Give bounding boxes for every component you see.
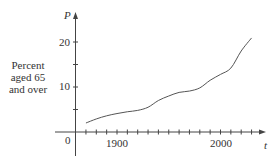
chart: P t 0 1900 2000 20 10 Percent aged 65 an… [0,0,276,161]
y-axis-variable-label: P [63,9,71,21]
line-chart-svg: P t 0 1900 2000 20 10 Percent aged 65 an… [0,0,276,161]
data-line-series [86,38,252,123]
origin-label: 0 [65,134,71,146]
y-tick-label-10: 10 [59,80,71,92]
y-description-line-2: aged 65 [11,71,46,83]
y-axis-description: Percent aged 65 and over [9,59,48,95]
x-axis-variable-label: t [264,139,268,151]
x-axis-arrow-icon [259,130,266,135]
x-tick-label-1900: 1900 [106,137,129,149]
y-axis-arrow-icon [73,12,78,19]
y-description-line-3: and over [9,83,48,95]
axes [55,12,266,156]
x-tick-label-2000: 2000 [210,137,233,149]
y-description-line-1: Percent [12,59,45,71]
y-tick-label-20: 20 [59,36,71,48]
